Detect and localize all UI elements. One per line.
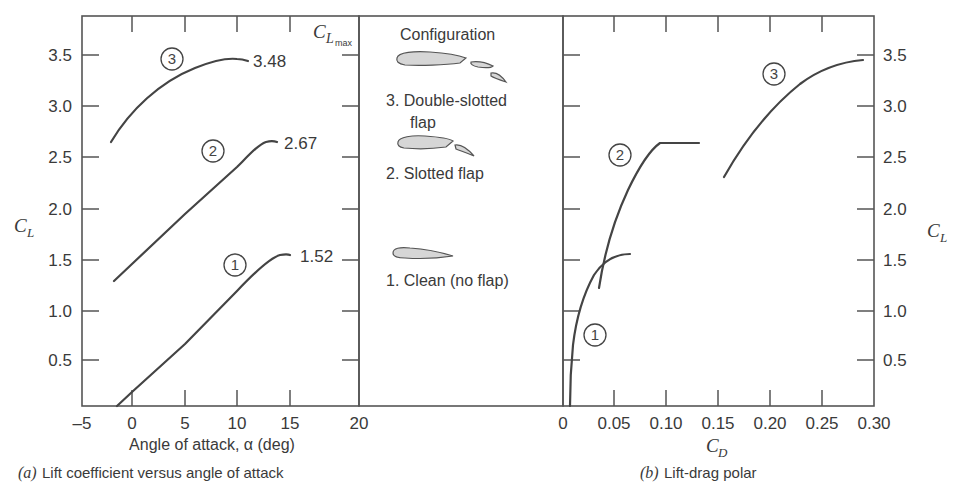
right-plot-frame: [563, 16, 874, 406]
curve-lift-clean: [117, 254, 290, 406]
airfoil-clean-icon: [393, 248, 453, 259]
svg-text:20: 20: [350, 414, 369, 433]
left-y-ticks: [82, 55, 359, 360]
left-y-tick-labels: 3.5 3.0 2.5 2.0 1.5 1.0 0.5: [48, 46, 72, 370]
svg-text:C: C: [313, 21, 326, 42]
left-plot-frame: [82, 16, 359, 406]
svg-text:2.0: 2.0: [883, 200, 907, 219]
ytick-label: 1.0: [48, 302, 72, 321]
marker-3-right: 3: [763, 63, 785, 85]
caption-a: (a) Lift coefficient versus angle of att…: [18, 464, 284, 482]
config-item-3-line1: 3. Double-slotted: [386, 92, 507, 109]
svg-text:0.15: 0.15: [701, 414, 734, 433]
clmax-value-3: 3.48: [253, 52, 286, 71]
svg-text:3: 3: [770, 65, 778, 82]
marker-2-left: 2: [202, 140, 224, 162]
config-item-3-line2: flap: [410, 114, 436, 131]
right-y-axis-title: C L: [927, 220, 947, 245]
svg-text:2: 2: [209, 142, 217, 159]
svg-text:L: L: [939, 230, 947, 245]
svg-text:10: 10: [228, 414, 247, 433]
clmax-value-1: 1.52: [300, 247, 333, 266]
svg-text:0: 0: [558, 414, 567, 433]
marker-1-right: 1: [584, 324, 606, 346]
svg-text:(a): (a): [18, 464, 37, 482]
clmax-header: C L max: [313, 21, 353, 48]
ytick-label: 2.0: [48, 200, 72, 219]
airfoil-slotted-icon: [398, 136, 474, 156]
svg-text:5: 5: [180, 414, 189, 433]
config-item-1: 1. Clean (no flap): [386, 272, 509, 289]
svg-text:1: 1: [591, 326, 599, 343]
svg-text:Lift coefficient versus angle: Lift coefficient versus angle of attack: [42, 464, 284, 481]
svg-text:C: C: [927, 220, 940, 241]
ytick-label: 1.5: [48, 251, 72, 270]
left-y-axis-title: C L: [14, 215, 34, 240]
ytick-label: 3.0: [48, 97, 72, 116]
right-y-tick-labels: 3.5 3.0 2.5 2.0 1.5 1.0 0.5: [883, 46, 907, 370]
left-x-axis-title: Angle of attack, α (deg): [129, 436, 295, 453]
svg-text:0.5: 0.5: [883, 351, 907, 370]
svg-text:L: L: [325, 31, 334, 46]
svg-text:1: 1: [231, 256, 239, 273]
right-x-ticks: [614, 16, 822, 406]
svg-text:0: 0: [127, 414, 136, 433]
svg-text:2: 2: [616, 146, 624, 163]
ytick-label: 3.5: [48, 46, 72, 65]
figure: 3.5 3.0 2.5 2.0 1.5 1.0 0.5 C L –5 0 5 1…: [0, 0, 959, 493]
svg-text:0.25: 0.25: [805, 414, 838, 433]
left-x-tick-labels: –5 0 5 10 15 20: [73, 414, 369, 433]
svg-text:max: max: [335, 38, 353, 48]
left-x-ticks: [132, 16, 290, 406]
svg-text:0.05: 0.05: [597, 414, 630, 433]
config-panel-frame: [359, 16, 563, 406]
svg-text:(b): (b): [640, 464, 659, 482]
config-item-2: 2. Slotted flap: [386, 165, 484, 182]
marker-1-left: 1: [224, 254, 246, 276]
svg-text:3: 3: [168, 50, 176, 67]
svg-text:Lift-drag polar: Lift-drag polar: [664, 464, 757, 481]
polar-curve-double-slotted: [724, 60, 863, 177]
right-x-axis-title: C D: [706, 435, 728, 460]
config-title: Configuration: [400, 26, 495, 43]
svg-text:–5: –5: [73, 414, 92, 433]
svg-text:0.20: 0.20: [753, 414, 786, 433]
clmax-value-2: 2.67: [284, 134, 317, 153]
curve-lift-double-slotted: [111, 59, 248, 142]
svg-text:3.5: 3.5: [883, 46, 907, 65]
marker-2-right: 2: [609, 144, 631, 166]
svg-text:3.0: 3.0: [883, 97, 907, 116]
svg-text:1.5: 1.5: [883, 251, 907, 270]
airfoil-double-slotted-icon: [397, 52, 506, 82]
ytick-label: 2.5: [48, 148, 72, 167]
svg-text:D: D: [717, 445, 728, 460]
right-y-ticks: [563, 55, 874, 360]
caption-b: (b) Lift-drag polar: [640, 464, 757, 482]
marker-3-left: 3: [161, 48, 183, 70]
svg-text:0.30: 0.30: [857, 414, 890, 433]
svg-text:L: L: [26, 225, 34, 240]
svg-text:2.5: 2.5: [883, 148, 907, 167]
right-x-tick-labels: 0 0.05 0.10 0.15 0.20 0.25 0.30: [558, 414, 890, 433]
curve-lift-slotted: [114, 141, 277, 281]
svg-text:C: C: [14, 215, 27, 236]
svg-text:0.10: 0.10: [649, 414, 682, 433]
svg-text:1.0: 1.0: [883, 302, 907, 321]
ytick-label: 0.5: [48, 351, 72, 370]
svg-text:15: 15: [281, 414, 300, 433]
